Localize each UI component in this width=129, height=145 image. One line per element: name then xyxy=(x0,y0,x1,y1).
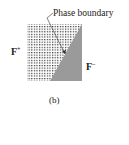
phase-square-graphic xyxy=(0,0,129,145)
phase-boundary-label: Phase boundary xyxy=(53,8,113,18)
panel-caption: (b) xyxy=(49,95,60,105)
f-plus-label: F+ xyxy=(11,46,21,57)
f-minus-label: F− xyxy=(86,61,96,72)
phase-diagram: Phase boundary F+ F− (b) xyxy=(0,0,129,145)
